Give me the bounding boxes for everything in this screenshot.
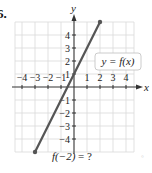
endpoint-dot — [98, 20, 102, 24]
corner-mark-icon: ◦ — [141, 152, 144, 161]
question-rest: = ? — [75, 150, 92, 162]
y-tick-label: 4 — [65, 30, 70, 41]
x-tick-label: 1 — [85, 72, 90, 83]
y-tick-label: −2 — [59, 108, 70, 119]
graph: −4 −3 −2 −1 1 2 3 4 4 3 2 1 −1 −2 −3 −4 … — [0, 0, 152, 173]
y-tick-label: −4 — [59, 134, 70, 145]
y-tick-label: 1 — [65, 69, 70, 80]
x-tick-label: 3 — [111, 72, 116, 83]
x-tick-label: −2 — [43, 72, 54, 83]
question: f(−2) = ? — [52, 150, 92, 162]
x-tick-label: 4 — [124, 72, 129, 83]
endpoint-dot — [33, 150, 37, 154]
y-tick-label: 3 — [65, 43, 70, 54]
y-axis-label: y — [70, 2, 76, 14]
question-expr: f(−2) — [52, 150, 75, 162]
y-axis-arrow-icon — [72, 14, 77, 21]
x-tick-label: −4 — [17, 72, 28, 83]
x-axis-arrow-icon — [136, 85, 143, 90]
y-tick-label: 2 — [65, 56, 70, 67]
x-axis-label: x — [143, 81, 149, 93]
x-tick-label: −3 — [30, 72, 41, 83]
axes — [12, 17, 140, 154]
x-tick-label: 2 — [98, 72, 103, 83]
function-label: y = f(x) — [100, 55, 134, 68]
y-tick-label: −3 — [59, 121, 70, 132]
